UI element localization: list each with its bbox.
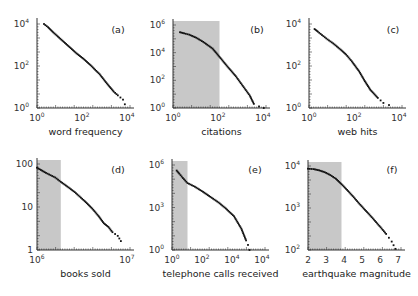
data-point xyxy=(122,99,124,101)
y-tick-label: 100 xyxy=(149,243,164,255)
x-tick-label: 2 xyxy=(305,255,311,265)
data-point xyxy=(391,241,393,243)
data-point xyxy=(388,237,390,239)
x-tick-label: 102 xyxy=(194,253,209,265)
x-tick-label: 102 xyxy=(210,111,225,123)
x-tick-label: 104 xyxy=(255,111,270,123)
y-tick-label: 106 xyxy=(149,158,164,170)
y-tick-label: 104 xyxy=(150,46,165,58)
data-point xyxy=(117,94,119,96)
panel-label: (c) xyxy=(387,24,400,35)
panel-f: 234567102103104(f)earthquake magnitude xyxy=(285,159,411,279)
data-point xyxy=(185,33,187,35)
data-point xyxy=(50,174,52,176)
data-point xyxy=(247,244,249,246)
y-tick-label: 102 xyxy=(285,243,300,255)
panel-label: (e) xyxy=(248,164,261,175)
x-tick-label: 102 xyxy=(74,111,89,123)
panel-e: 100102104104100103106(e)telephone calls … xyxy=(149,158,279,279)
x-tick-label: 4 xyxy=(341,255,347,265)
y-tick-label: 100 xyxy=(150,101,165,113)
y-tick-label: 102 xyxy=(14,59,29,71)
data-point xyxy=(118,238,120,240)
data-point xyxy=(388,104,390,106)
panel-label: (b) xyxy=(250,24,263,35)
x-tick-label: 104 xyxy=(254,253,269,265)
y-tick-label: 104 xyxy=(286,17,301,29)
x-tick-label: 100 xyxy=(164,253,179,265)
y-tick-label: 102 xyxy=(286,59,301,71)
x-axis-title: earthquake magnitude xyxy=(302,268,411,279)
data-point xyxy=(263,107,265,109)
x-axis-title: books sold xyxy=(60,268,111,279)
y-tick-label: 106 xyxy=(150,18,165,30)
data-point xyxy=(307,168,309,170)
x-axis-title: word frequency xyxy=(48,126,122,137)
y-tick-label: 104 xyxy=(14,17,29,29)
data-point xyxy=(124,103,126,105)
y-tick-label: 1 xyxy=(27,245,33,255)
x-tick-label: 6 xyxy=(377,255,383,265)
x-tick-label: 100 xyxy=(301,111,316,123)
panel-label: (a) xyxy=(111,24,124,35)
figure-canvas: 100102104100102104(a)word frequency10010… xyxy=(0,0,418,296)
data-point xyxy=(120,240,122,242)
data-point xyxy=(117,235,119,237)
data-point xyxy=(53,176,55,178)
x-tick-label: 7 xyxy=(395,255,401,265)
y-tick-label: 100 xyxy=(286,101,301,113)
data-point xyxy=(380,100,382,102)
x-axis-title: telephone calls received xyxy=(163,268,279,279)
y-tick-label: 102 xyxy=(150,73,165,85)
data-point xyxy=(47,173,49,175)
x-tick-label: 104 xyxy=(224,253,239,265)
panel-label: (f) xyxy=(387,164,398,175)
y-tick-label: 100 xyxy=(14,101,29,113)
data-point xyxy=(253,103,255,105)
x-tick-label: 107 xyxy=(119,253,134,265)
data-point xyxy=(383,102,385,104)
data-point xyxy=(48,174,50,176)
data-point xyxy=(114,233,116,235)
shaded-region xyxy=(173,21,220,108)
panel-label: (d) xyxy=(111,164,124,175)
data-point xyxy=(51,175,53,177)
data-point xyxy=(245,240,247,242)
y-tick-label: 104 xyxy=(285,159,300,171)
data-point xyxy=(377,97,379,99)
x-tick-label: 5 xyxy=(359,255,365,265)
shaded-region xyxy=(37,160,61,250)
y-tick-label: 100 xyxy=(16,159,33,169)
data-point xyxy=(112,231,114,233)
panel-c: 100102104100102104(c)web hits xyxy=(286,17,407,137)
x-axis-title: web hits xyxy=(338,126,378,137)
x-tick-label: 102 xyxy=(346,111,361,123)
data-point xyxy=(120,97,122,99)
data-point xyxy=(393,244,395,246)
x-tick-label: 100 xyxy=(29,111,44,123)
data-point xyxy=(385,233,387,235)
y-tick-label: 10 xyxy=(22,202,34,212)
y-tick-label: 103 xyxy=(149,201,164,213)
x-tick-label: 3 xyxy=(323,255,329,265)
data-point xyxy=(45,172,47,174)
data-point xyxy=(249,249,251,251)
x-tick-label: 100 xyxy=(165,111,180,123)
panel-b: 100102104100102104106(b)citations xyxy=(150,18,271,137)
y-tick-label: 103 xyxy=(285,201,300,213)
x-axis-title: citations xyxy=(201,126,242,137)
data-point xyxy=(183,32,185,34)
x-tick-label: 104 xyxy=(391,111,406,123)
panel-a: 100102104100102104(a)word frequency xyxy=(14,17,135,137)
data-point xyxy=(187,33,189,35)
data-point xyxy=(311,168,313,170)
x-tick-label: 104 xyxy=(119,111,134,123)
data-point xyxy=(395,248,397,250)
shaded-region xyxy=(308,162,341,250)
data-point xyxy=(309,168,311,170)
panel-d: 106107110100(d)books sold xyxy=(16,158,135,279)
data-point xyxy=(258,106,260,108)
